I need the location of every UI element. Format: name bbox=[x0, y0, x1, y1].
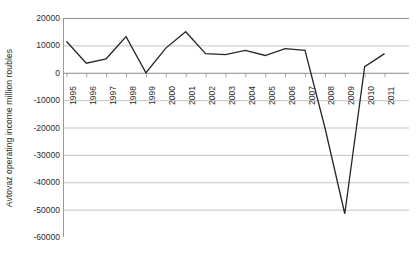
x-tick-label: 2009 bbox=[347, 86, 356, 105]
x-tick-label: 2011 bbox=[387, 87, 396, 105]
y-tick-label: 10000 bbox=[14, 41, 60, 50]
x-tick-label: 2010 bbox=[367, 86, 376, 105]
x-tick-label: 2006 bbox=[288, 86, 297, 105]
y-tick-label: -50000 bbox=[14, 205, 60, 214]
x-tick-label: 2008 bbox=[327, 86, 336, 105]
x-tick-label: 2007 bbox=[308, 86, 317, 105]
x-tick-label: 2000 bbox=[168, 86, 177, 105]
x-tick-label: 2001 bbox=[188, 86, 197, 105]
x-tick-label: 1997 bbox=[109, 86, 118, 105]
y-axis-tick-labels: 20000100000-10000-20000-30000-40000-5000… bbox=[14, 0, 60, 256]
y-tick-label: -20000 bbox=[14, 123, 60, 132]
x-tick-label: 1999 bbox=[148, 86, 157, 105]
x-tick-label: 2005 bbox=[268, 86, 277, 105]
x-tick-label: 2003 bbox=[228, 86, 237, 105]
y-tick-label: 0 bbox=[14, 68, 60, 77]
x-tick-label: 2002 bbox=[208, 86, 217, 105]
x-axis-tick-labels: 1995199619971998199920002001200220032004… bbox=[63, 0, 408, 256]
y-tick-label: -10000 bbox=[14, 96, 60, 105]
x-tick-label: 1998 bbox=[129, 86, 138, 105]
x-tick-label: 1995 bbox=[69, 86, 78, 105]
x-tick-label: 2004 bbox=[248, 86, 257, 105]
y-tick-label: -60000 bbox=[14, 233, 60, 242]
y-tick-label: 20000 bbox=[14, 14, 60, 23]
x-tick-label: 1996 bbox=[89, 86, 98, 105]
y-tick-label: -40000 bbox=[14, 178, 60, 187]
y-tick-label: -30000 bbox=[14, 150, 60, 159]
chart-container: Avtovaz operating income million roubles… bbox=[0, 0, 420, 256]
